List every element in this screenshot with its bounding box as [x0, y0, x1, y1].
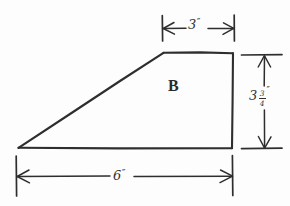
dimension-right-unit: ″ — [267, 86, 270, 95]
fraction-numerator: 3 — [259, 90, 266, 98]
shape-edge-bottom — [19, 148, 233, 149]
dimension-label-bottom: 6″ — [113, 169, 125, 182]
shape-edge-right — [232, 53, 233, 148]
dimension-right-whole: 3 — [249, 89, 257, 102]
dimension-top-unit: ″ — [197, 16, 201, 27]
dimension-label-top: 3″ — [188, 18, 200, 31]
dimension-top-value: 3 — [188, 17, 196, 32]
dimension-bottom-unit: ″ — [122, 167, 126, 178]
fraction-denominator: 4 — [259, 99, 266, 107]
shape-edge-slant — [19, 53, 164, 148]
figure-canvas: B 3″ 3 3 4 ″ 6″ — [0, 0, 290, 206]
diagram-svg — [0, 0, 290, 206]
region-label-b: B — [168, 78, 179, 94]
dimension-right-fraction: 3 4 — [259, 90, 266, 107]
dim-bottom-line-left — [17, 176, 110, 177]
dimension-label-right: 3 3 4 ″ — [249, 89, 269, 106]
dimension-bottom-value: 6 — [113, 168, 121, 183]
shape-edge-top — [164, 52, 234, 53]
trapezoid-shape — [19, 52, 234, 148]
